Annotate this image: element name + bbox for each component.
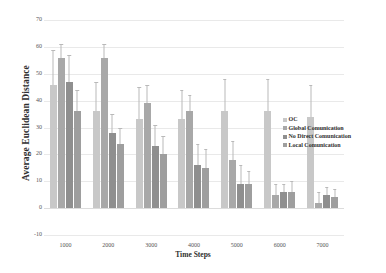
bar-wrapper: [66, 0, 73, 208]
error-bar-cap: [161, 136, 165, 137]
gridline: [44, 235, 344, 236]
bar[interactable]: [264, 111, 271, 208]
bar[interactable]: [315, 203, 322, 208]
error-bar-cap: [317, 192, 321, 193]
bar[interactable]: [74, 111, 81, 208]
bar-wrapper: [272, 0, 279, 208]
bar[interactable]: [194, 165, 201, 208]
bar[interactable]: [136, 119, 143, 208]
legend-item[interactable]: No Direct Comunication: [283, 133, 384, 140]
bar-wrapper: [288, 0, 295, 208]
bar-wrapper: [202, 0, 209, 208]
bar-group: 1000: [44, 20, 87, 235]
error-bar-cap: [111, 114, 115, 115]
bar-wrapper: [160, 0, 167, 208]
x-axis-tick-label: 5000: [215, 242, 258, 248]
bar-wrapper: [229, 0, 236, 208]
bar[interactable]: [221, 111, 228, 208]
error-bar: [189, 96, 190, 112]
error-bar: [232, 142, 233, 161]
error-bar-cap: [247, 171, 251, 172]
error-bar: [240, 166, 241, 185]
y-axis-tick-label: 0: [14, 204, 42, 210]
error-bar-cap: [60, 44, 64, 45]
error-bar: [104, 45, 105, 58]
bar[interactable]: [280, 192, 287, 208]
bar-wrapper: [307, 0, 314, 208]
error-bar-cap: [239, 165, 243, 166]
bar[interactable]: [101, 58, 108, 209]
legend-swatch: [283, 135, 287, 139]
bar[interactable]: [66, 82, 73, 208]
error-bar-cap: [231, 141, 235, 142]
error-bar-cap: [204, 149, 208, 150]
bar-wrapper: [245, 0, 252, 208]
bar-group: 5000: [215, 20, 258, 235]
error-bar-cap: [274, 184, 278, 185]
error-bar-cap: [266, 79, 270, 80]
error-bar-cap: [119, 128, 123, 129]
error-bar: [53, 51, 54, 86]
bar[interactable]: [288, 192, 295, 208]
legend-item[interactable]: Global Comunication: [283, 125, 384, 132]
bar-wrapper: [323, 0, 330, 208]
bar[interactable]: [229, 160, 236, 208]
error-bar-cap: [68, 55, 72, 56]
error-bar-cap: [76, 90, 80, 91]
bar-wrapper: [117, 0, 124, 208]
x-axis-tick-label: 7000: [301, 242, 344, 248]
bar[interactable]: [160, 154, 167, 208]
error-bar: [120, 129, 121, 145]
bar[interactable]: [50, 85, 57, 209]
legend-label: OC: [289, 116, 298, 123]
bar[interactable]: [117, 144, 124, 209]
bar-wrapper: [186, 0, 193, 208]
y-axis-tick-label: 10: [14, 177, 42, 183]
y-axis-tick-label: -10: [14, 231, 42, 237]
bar[interactable]: [186, 111, 193, 208]
x-axis-tick-label: 1000: [44, 242, 87, 248]
bar-wrapper: [280, 0, 287, 208]
bar-group: 2000: [87, 20, 130, 235]
bar[interactable]: [245, 184, 252, 208]
bar[interactable]: [144, 103, 151, 208]
x-axis-tick-label: 2000: [87, 242, 130, 248]
bar-wrapper: [136, 0, 143, 208]
bar[interactable]: [109, 133, 116, 208]
bar-group: 4000: [173, 20, 216, 235]
bar-wrapper: [237, 0, 244, 208]
error-bar-cap: [52, 50, 56, 51]
y-axis-tick-label: 50: [14, 70, 42, 76]
y-axis-tick-label: 40: [14, 97, 42, 103]
error-bar-cap: [145, 85, 149, 86]
bar[interactable]: [58, 58, 65, 209]
bar[interactable]: [272, 195, 279, 208]
bar[interactable]: [323, 195, 330, 208]
bar-wrapper: [74, 0, 81, 208]
y-axis-tick-label: 60: [14, 43, 42, 49]
legend-item[interactable]: OC: [283, 116, 384, 123]
y-axis-tick-label: 70: [14, 16, 42, 22]
bar-wrapper: [264, 0, 271, 208]
error-bar-cap: [196, 144, 200, 145]
legend-item[interactable]: Local Comunication: [283, 142, 384, 149]
y-axis-tick-label: 20: [14, 150, 42, 156]
bar[interactable]: [237, 184, 244, 208]
bar-wrapper: [101, 0, 108, 208]
legend-label: Global Comunication: [289, 125, 344, 132]
bar[interactable]: [202, 168, 209, 208]
error-bar: [163, 137, 164, 156]
bar-wrapper: [331, 0, 338, 208]
bar-group: 3000: [130, 20, 173, 235]
bar[interactable]: [93, 111, 100, 208]
bar[interactable]: [178, 119, 185, 208]
error-bar: [139, 88, 140, 120]
bar[interactable]: [152, 146, 159, 208]
legend-swatch: [283, 143, 287, 147]
error-bar-cap: [290, 181, 294, 182]
legend-label: Local Comunication: [289, 142, 341, 149]
error-bar-cap: [325, 187, 329, 188]
x-axis-tick-label: 3000: [130, 242, 173, 248]
error-bar: [310, 86, 311, 118]
bar[interactable]: [331, 197, 338, 208]
